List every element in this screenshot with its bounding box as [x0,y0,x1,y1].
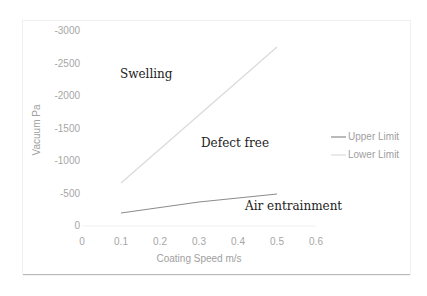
y-tick: -1500 [54,123,80,134]
x-tick: 0 [79,236,85,247]
y-tick: -2000 [54,90,80,101]
y-tick: -2500 [54,58,80,69]
chart-svg: -3000 -2500 -2000 -1500 -1000 -500 0 Vac… [0,0,427,296]
x-tick: 0.1 [114,236,128,247]
annotation-defect-free: Defect free [201,136,269,150]
annotation-swelling: Swelling [120,67,173,81]
y-axis-title: Vacuum Pa [31,104,42,155]
x-tick: 0.4 [231,236,245,247]
legend-label-lower-limit: Lower Limit [348,149,399,160]
x-tick: 0.2 [153,236,167,247]
x-tick: 0.6 [309,236,323,247]
annotation-air-entrainment: Air entrainment [244,199,342,213]
x-tick: 0.3 [192,236,206,247]
y-tick: -500 [60,188,80,199]
y-tick: 0 [74,220,80,231]
x-axis-ticks: 0 0.1 0.2 0.3 0.4 0.5 0.6 [79,236,323,247]
legend-label-upper-limit: Upper Limit [348,131,399,142]
y-axis-ticks: -3000 -2500 -2000 -1500 -1000 -500 0 [54,25,80,231]
y-tick: -1000 [54,155,80,166]
legend: Upper Limit Lower Limit [331,131,399,160]
x-axis-title: Coating Speed m/s [156,253,241,264]
x-tick: 0.5 [270,236,284,247]
y-tick: -3000 [54,25,80,36]
